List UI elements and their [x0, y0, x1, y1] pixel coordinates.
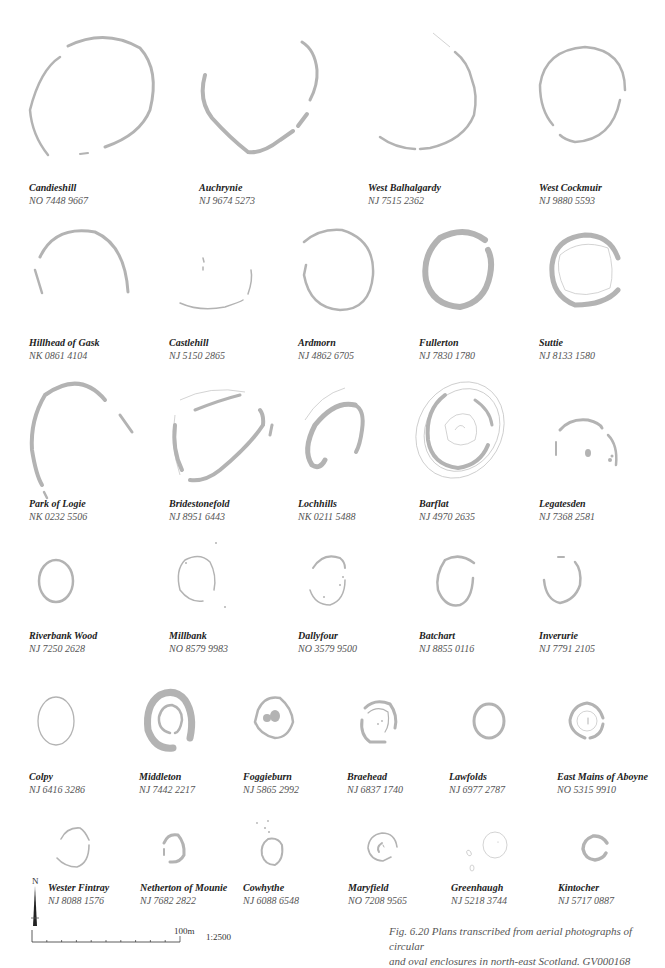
- site-grid-ref: NJ 7830 1780: [419, 349, 475, 362]
- enclosure-plan-icon: [340, 0, 500, 175]
- site-grid-ref: NK 0211 5488: [298, 510, 356, 523]
- plan-braehead: [340, 680, 430, 770]
- site-name: Greenhaugh: [451, 881, 507, 894]
- site-grid-ref: NJ 9674 5273: [199, 194, 255, 207]
- site-label: Lawfolds NJ 6977 2787: [449, 770, 505, 796]
- site-name: West Balhalgardy: [368, 181, 441, 194]
- plan-netherton-of-mounie: [140, 815, 210, 880]
- plan-east-mains-of-aboyne: [555, 680, 645, 770]
- site-grid-ref: NO 5315 9910: [557, 783, 648, 796]
- site-label: Wester Fintray NJ 8088 1576: [48, 881, 109, 907]
- scale-distance-label: 100m: [174, 926, 195, 936]
- plan-riverbank-wood: [20, 540, 120, 630]
- plan-west-cockmuir: [530, 0, 665, 175]
- scale-bar: 100m 1:2500: [30, 930, 190, 948]
- plan-batchart: [410, 540, 510, 630]
- plan-kintocher: [555, 815, 625, 880]
- site-name: Cowhythe: [243, 881, 299, 894]
- site-name: Batchart: [419, 629, 474, 642]
- site-label: East Mains of Aboyne NO 5315 9910: [557, 770, 648, 796]
- site-name: Lawfolds: [449, 770, 505, 783]
- site-grid-ref: NJ 6416 3286: [29, 783, 85, 796]
- plan-colpy: [20, 680, 110, 770]
- plan-candieshill: [0, 0, 160, 175]
- site-grid-ref: NK 0232 5506: [29, 510, 87, 523]
- enclosure-plan-icon: [410, 220, 510, 330]
- site-label: Riverbank Wood NJ 7250 2628: [29, 629, 97, 655]
- site-name: Inverurie: [539, 629, 595, 642]
- site-name: Braehead: [347, 770, 403, 783]
- plan-wester-fintray: [45, 815, 115, 880]
- plan-park-of-logie: [20, 370, 150, 500]
- site-label: Inverurie NJ 7791 2105: [539, 629, 595, 655]
- site-label: Legatesden NJ 7368 2581: [539, 497, 595, 523]
- enclosure-plan-icon: [240, 815, 310, 880]
- enclosure-plan-icon: [290, 540, 390, 630]
- site-label: Millbank NO 8579 9983: [169, 629, 228, 655]
- site-grid-ref: NJ 7368 2581: [539, 510, 595, 523]
- site-name: Colpy: [29, 770, 85, 783]
- plan-cowhythe: [240, 815, 310, 880]
- enclosure-plan-icon: [20, 370, 150, 500]
- site-label: Dallyfour NO 3579 9500: [298, 629, 357, 655]
- site-name: Netherton of Mounie: [140, 881, 227, 894]
- site-name: Bridestonefold: [169, 497, 230, 510]
- enclosure-plan-icon: [290, 220, 390, 330]
- enclosure-plan-icon: [45, 815, 115, 880]
- site-name: Suttie: [539, 336, 595, 349]
- site-grid-ref: NJ 6088 6548: [243, 894, 299, 907]
- site-label: Foggieburn NJ 5865 2992: [243, 770, 299, 796]
- enclosure-plan-icon: [345, 815, 415, 880]
- site-label: Park of Logie NK 0232 5506: [29, 497, 87, 523]
- scale-ratio-label: 1:2500: [206, 932, 231, 942]
- enclosure-plan-icon: [290, 370, 390, 500]
- site-label: Bridestonefold NJ 8951 6443: [169, 497, 230, 523]
- site-grid-ref: NJ 8951 6443: [169, 510, 230, 523]
- site-name: Castlehill: [169, 336, 225, 349]
- enclosure-plan-icon: [555, 680, 645, 770]
- site-name: East Mains of Aboyne: [557, 770, 648, 783]
- site-label: Candieshill NO 7448 9667: [29, 181, 88, 207]
- site-grid-ref: NO 7448 9667: [29, 194, 88, 207]
- site-name: Maryfield: [348, 881, 407, 894]
- site-label: Maryfield NO 7208 9565: [348, 881, 407, 907]
- plan-foggieburn: [240, 680, 330, 770]
- plan-middleton: [130, 680, 220, 770]
- enclosure-plan-icon: [455, 815, 525, 880]
- site-grid-ref: NJ 6977 2787: [449, 783, 505, 796]
- site-grid-ref: NO 7208 9565: [348, 894, 407, 907]
- site-label: West Cockmuir NJ 9880 5593: [539, 181, 602, 207]
- site-label: Greenhaugh NJ 5218 3744: [451, 881, 507, 907]
- plan-greenhaugh: [455, 815, 525, 880]
- caption-line-1: Fig. 6.20 Plans transcribed from aerial …: [389, 924, 665, 954]
- figure-caption: Fig. 6.20 Plans transcribed from aerial …: [389, 924, 665, 968]
- plan-bridestonefold: [160, 370, 280, 500]
- site-name: Wester Fintray: [48, 881, 109, 894]
- site-label: Ardmorn NJ 4862 6705: [298, 336, 354, 362]
- site-label: Suttie NJ 8133 1580: [539, 336, 595, 362]
- site-label: Kintocher NJ 5717 0887: [558, 881, 614, 907]
- site-name: Legatesden: [539, 497, 595, 510]
- enclosure-plan-icon: [20, 220, 140, 330]
- scale-bar-icon: [30, 930, 190, 944]
- enclosure-plan-icon: [530, 0, 665, 175]
- site-grid-ref: NK 0861 4104: [29, 349, 100, 362]
- site-name: West Cockmuir: [539, 181, 602, 194]
- site-label: Colpy NJ 6416 3286: [29, 770, 85, 796]
- enclosure-plan-icon: [130, 680, 220, 770]
- plan-auchrynie: [190, 0, 340, 175]
- enclosure-plan-icon: [160, 540, 260, 630]
- site-label: Castlehill NJ 5150 2865: [169, 336, 225, 362]
- north-label: N: [32, 876, 39, 886]
- enclosure-plan-icon: [340, 680, 430, 770]
- plan-hillhead-of-gask: [20, 220, 140, 330]
- site-name: Riverbank Wood: [29, 629, 97, 642]
- site-label: Hillhead of Gask NK 0861 4104: [29, 336, 100, 362]
- enclosure-plan-icon: [190, 0, 340, 175]
- enclosure-plan-icon: [530, 220, 640, 330]
- site-grid-ref: NJ 5717 0887: [558, 894, 614, 907]
- enclosure-plan-icon: [410, 370, 520, 500]
- site-name: Fullerton: [419, 336, 475, 349]
- site-name: Auchrynie: [199, 181, 255, 194]
- enclosure-plan-icon: [20, 540, 120, 630]
